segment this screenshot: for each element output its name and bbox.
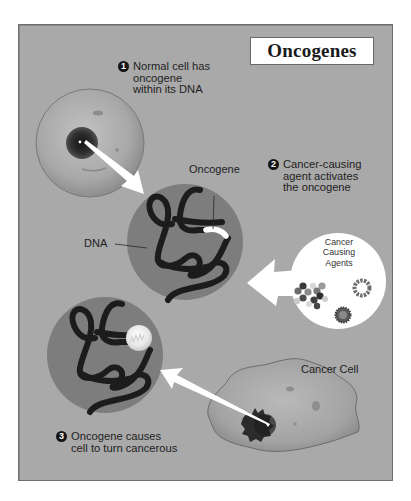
agents-label-line: Causing — [309, 247, 369, 257]
virus-icon — [336, 308, 351, 323]
step-text-line: the oncogene — [283, 182, 361, 194]
step-2: 2 Cancer-causing agent activates the onc… — [268, 159, 361, 194]
step-number-badge: 2 — [268, 159, 279, 170]
oncogene-label: Oncogene — [189, 163, 240, 175]
dna-circle-cancerous — [47, 297, 163, 413]
cancer-causing-agents-label: Cancer Causing Agents — [309, 237, 369, 268]
cancer-cell-label: Cancer Cell — [301, 363, 358, 375]
step-text-line: cell to turn cancerous — [71, 443, 177, 455]
step-text-line: Oncogene causes — [71, 431, 177, 443]
step-3: 3 Oncogene causes cell to turn cancerous — [56, 431, 177, 454]
step-text-line: Normal cell has — [133, 61, 210, 73]
agents-label-line: Agents — [309, 258, 369, 268]
dna-label: DNA — [84, 237, 107, 249]
step-number-badge: 3 — [56, 431, 67, 442]
step-number-badge: 1 — [118, 61, 129, 72]
step-text-line: within its DNA — [133, 84, 210, 96]
agents-label-line: Cancer — [309, 237, 369, 247]
step-1: 1 Normal cell has oncogene within its DN… — [118, 61, 210, 96]
dna-circle-activation — [115, 184, 243, 300]
step-text-line: Cancer-causing — [283, 159, 361, 171]
nucleus — [66, 127, 98, 159]
